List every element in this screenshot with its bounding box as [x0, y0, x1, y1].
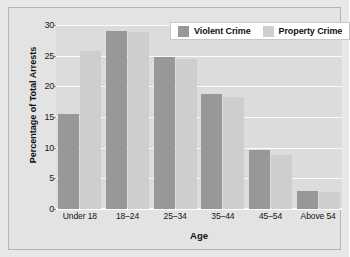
bar — [80, 51, 101, 209]
x-axis-line — [56, 209, 342, 210]
bar — [106, 31, 127, 209]
legend-label: Violent Crime — [194, 26, 251, 36]
y-axis-title: Percentage of Total Arrests — [28, 25, 38, 185]
bar — [249, 150, 270, 209]
x-tick-label: Above 54 — [294, 211, 342, 221]
legend-swatch-icon — [263, 26, 274, 37]
x-axis-ticks: Under 1818–2425–3435–4445–54Above 54 — [56, 211, 342, 225]
x-axis-title: Age — [56, 230, 342, 241]
x-tick-label: 35–44 — [199, 211, 247, 221]
bar — [319, 192, 340, 209]
bar — [128, 32, 149, 209]
plot-area — [56, 25, 342, 209]
x-tick-label: 45–54 — [247, 211, 295, 221]
bar — [176, 59, 197, 209]
bar — [223, 97, 244, 209]
bar — [201, 94, 222, 209]
chart-legend: Violent Crime Property Crime — [170, 22, 350, 40]
legend-entry-violent-crime: Violent Crime — [178, 26, 251, 37]
x-tick-label: 25–34 — [151, 211, 199, 221]
chart-frame: 30 25 20 15 10 5 0 Percentage of Total A… — [8, 7, 341, 250]
y-tick-label: 0 — [26, 205, 54, 214]
bar — [297, 191, 318, 209]
x-tick-label: 18–24 — [104, 211, 152, 221]
x-tick-label: Under 18 — [56, 211, 104, 221]
legend-label: Property Crime — [279, 26, 343, 36]
legend-entry-property-crime: Property Crime — [263, 26, 343, 37]
legend-swatch-icon — [178, 26, 189, 37]
bar — [271, 155, 292, 209]
bar — [154, 57, 175, 209]
bar — [58, 114, 79, 209]
